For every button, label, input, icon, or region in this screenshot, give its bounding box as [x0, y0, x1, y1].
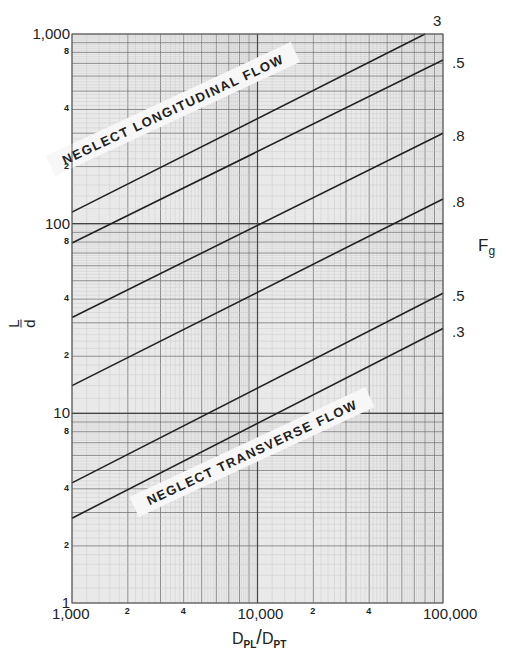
y-tick-minor: 8 — [64, 46, 69, 56]
y-tick-minor: 4 — [64, 483, 69, 493]
series-label-1: .5 — [452, 54, 465, 71]
y-tick-minor: 2 — [64, 161, 69, 171]
y-tick-minor: 4 — [64, 103, 69, 113]
x-title-d1: D — [232, 630, 244, 647]
y-tick-minor: 4 — [64, 293, 69, 303]
x-title-sub1: PL — [244, 639, 257, 650]
x-tick-major: 10,000 — [238, 605, 284, 622]
series-label-2: .8 — [452, 127, 465, 144]
x-title-d2: D — [262, 630, 274, 647]
y-tick-major: 10 — [53, 404, 70, 421]
x-tick-minor: 2 — [125, 606, 130, 616]
x-tick-minor: 4 — [366, 606, 371, 616]
y-axis-title-denominator: d — [22, 319, 37, 327]
series-label-4: .5 — [452, 287, 465, 304]
y-tick-major: 100 — [45, 215, 70, 232]
x-title-sub2: PT — [273, 639, 286, 650]
x-tick-minor: 4 — [181, 606, 186, 616]
fg-title-main: F — [478, 236, 488, 255]
series-label-0: 3 — [433, 12, 441, 29]
y-tick-minor: 8 — [64, 236, 69, 246]
series-label-5: .3 — [452, 323, 465, 340]
x-axis-title: DPL/DPT — [232, 626, 286, 650]
series-label-3: .8 — [452, 193, 465, 210]
y-axis-title-numerator: L — [6, 319, 22, 327]
fg-axis-title: Fg — [478, 236, 495, 258]
fg-title-sub: g — [488, 244, 495, 258]
x-tick-minor: 2 — [310, 606, 315, 616]
x-tick-major: 100,000 — [423, 605, 477, 622]
x-tick-major: 1,000 — [52, 605, 90, 622]
y-tick-major: 1,000 — [32, 25, 70, 42]
y-axis-title: L d — [6, 317, 37, 331]
y-tick-minor: 2 — [64, 350, 69, 360]
y-tick-minor: 8 — [64, 426, 69, 436]
y-tick-minor: 2 — [64, 540, 69, 550]
chart-canvas: NEGLECT LONGITUDINAL FLOWNEGLECT TRANSVE… — [0, 0, 507, 661]
